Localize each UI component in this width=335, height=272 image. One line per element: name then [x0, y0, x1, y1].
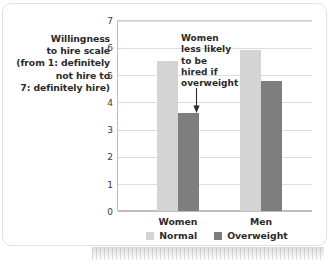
bar-men-normal — [240, 50, 261, 211]
y-axis-tick-label: 4 — [107, 98, 113, 108]
overweight-swatch — [214, 232, 222, 240]
y-axis-tick-label: 7 — [107, 16, 113, 26]
gridline — [118, 210, 312, 212]
annotation-line-3: to be — [181, 56, 239, 67]
y-axis-tick-label: 5 — [107, 71, 113, 81]
down-arrow-icon — [192, 88, 201, 113]
annotation-line-1: Women — [181, 33, 239, 44]
figure-root: Willingness to hire scale (from 1: defin… — [0, 0, 335, 272]
legend: NormalOverweight — [117, 230, 317, 241]
x-axis-tick-label-women: Women — [159, 216, 198, 227]
y-axis-tick-label: 0 — [107, 207, 113, 217]
bar-women-overweight — [178, 113, 199, 211]
y-axis-tick-label: 6 — [107, 43, 113, 53]
y-axis-tick-label: 2 — [107, 152, 113, 162]
card-shadow-band — [92, 247, 324, 260]
normal-swatch — [146, 232, 154, 240]
y-axis-caption: Willingness to hire scale (from 1: defin… — [6, 33, 110, 94]
gridline — [118, 130, 312, 131]
y-axis-caption-line-4: not hire to — [6, 70, 110, 82]
legend-label: Overweight — [227, 230, 288, 241]
y-axis-tick-label: 3 — [107, 125, 113, 135]
annotation-line-4: hired if — [181, 67, 239, 78]
bar-women-normal — [157, 61, 178, 211]
y-axis-caption-line-2: to hire scale — [6, 45, 110, 57]
annotation-line-5: overweight — [181, 78, 239, 89]
annotation-line-2: less likely — [181, 44, 239, 55]
bar-men-overweight — [261, 81, 282, 211]
y-axis-tick-label: 1 — [107, 180, 113, 190]
y-axis-caption-line-1: Willingness — [6, 33, 110, 45]
legend-label: Normal — [159, 230, 197, 241]
x-axis-tick-label-men: Men — [250, 216, 272, 227]
gridline — [118, 157, 312, 158]
gridline — [118, 184, 312, 185]
y-axis-caption-line-3: (from 1: definitely — [6, 57, 110, 69]
gridline — [118, 102, 312, 103]
y-axis-caption-line-5: 7: definitely hire) — [6, 82, 110, 94]
legend-item-overweight[interactable]: Overweight — [214, 230, 288, 241]
legend-item-normal[interactable]: Normal — [146, 230, 197, 241]
gridline — [118, 21, 312, 22]
annotation-text: Women less likely to be hired if overwei… — [181, 33, 239, 89]
